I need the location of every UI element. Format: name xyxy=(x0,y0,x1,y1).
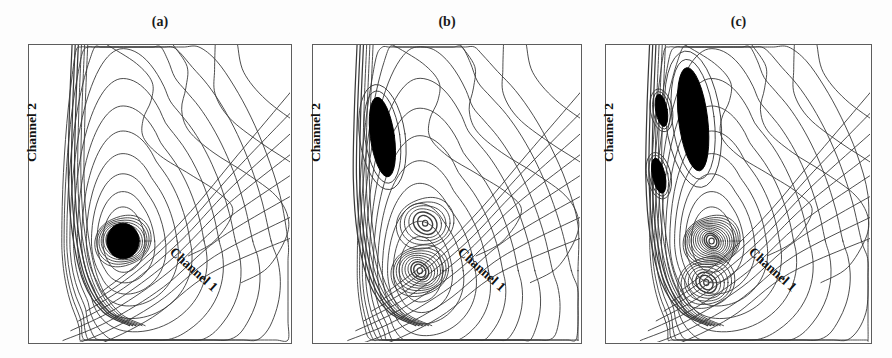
panel-b: (b)Channel 2Channel 1 xyxy=(312,0,582,358)
contour-plot-c xyxy=(606,45,870,342)
plot-frame-b xyxy=(312,44,582,344)
panel-label-b: (b) xyxy=(312,14,582,30)
panel-c: (c)Channel 2Channel 1 xyxy=(605,0,872,358)
plot-frame-c xyxy=(605,44,872,344)
panel-label-a: (a) xyxy=(28,14,292,30)
plot-frame-a xyxy=(28,44,292,344)
contour-plot-a xyxy=(29,45,290,342)
panel-label-c: (c) xyxy=(605,14,872,30)
panel-a: (a)Channel 2Channel 1 xyxy=(28,0,292,358)
contour-plot-b xyxy=(313,45,580,342)
contour-figure: (a)Channel 2Channel 1(b)Channel 2Channel… xyxy=(0,0,892,358)
